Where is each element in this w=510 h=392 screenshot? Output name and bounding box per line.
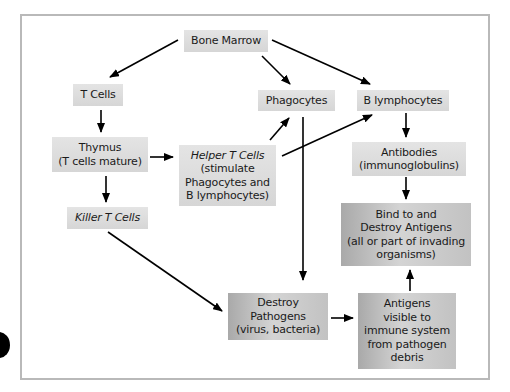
node-label: T Cells bbox=[80, 88, 115, 102]
arrow-bonemarrow-blymphocytes bbox=[272, 40, 370, 84]
node-line: Pathogens bbox=[250, 310, 306, 324]
node-label: Killer T Cells bbox=[75, 211, 140, 225]
node-sublabel-line: (stimulate bbox=[201, 162, 255, 176]
node-helper-t-cells: Helper T Cells (stimulate Phagocytes and… bbox=[179, 145, 276, 206]
node-label: Helper T Cells bbox=[191, 149, 265, 163]
node-line: (all or part of invading bbox=[347, 235, 465, 249]
node-thymus: Thymus (T cells mature) bbox=[52, 137, 148, 172]
node-antibodies: Antibodies (immunoglobulins) bbox=[352, 142, 466, 176]
node-phagocytes: Phagocytes bbox=[258, 90, 335, 111]
node-label: Bone Marrow bbox=[191, 34, 261, 48]
node-line: immune system bbox=[364, 324, 450, 338]
node-sublabel: (T cells mature) bbox=[58, 155, 142, 169]
node-line: Antigens bbox=[384, 297, 431, 311]
node-line: Destroy bbox=[257, 296, 298, 310]
node-sublabel-line: Phagocytes and bbox=[185, 176, 270, 190]
node-sublabel-line: B lymphocytes) bbox=[186, 189, 269, 203]
node-killer-t-cells: Killer T Cells bbox=[67, 207, 148, 229]
node-bind-destroy-antigens: Bind to and Destroy Antigens (all or par… bbox=[341, 203, 471, 266]
node-antigens-visible: Antigens visible to immune system from p… bbox=[358, 293, 456, 369]
node-line: Destroy Antigens bbox=[360, 221, 451, 235]
node-line: visible to bbox=[383, 311, 431, 325]
node-sublabel: (immunoglobulins) bbox=[359, 159, 459, 173]
node-label: Thymus bbox=[79, 141, 121, 155]
node-line: from pathogen bbox=[368, 338, 447, 352]
arrow-bonemarrow-phagocytes bbox=[262, 56, 290, 84]
arrow-helpert-phagocytes bbox=[270, 118, 289, 140]
node-label: Antibodies bbox=[381, 146, 437, 160]
node-line: organisms) bbox=[376, 248, 435, 262]
arrow-bonemarrow-tcells bbox=[110, 40, 178, 77]
node-line: (virus, bacteria) bbox=[236, 323, 320, 337]
node-label: Phagocytes bbox=[266, 94, 327, 108]
node-b-lymphocytes: B lymphocytes bbox=[357, 90, 449, 111]
node-line: debris bbox=[391, 351, 424, 365]
arrow-killert-destroy bbox=[108, 232, 222, 311]
node-bone-marrow: Bone Marrow bbox=[184, 30, 268, 52]
node-line: Bind to and bbox=[375, 208, 436, 222]
node-destroy-pathogens: Destroy Pathogens (virus, bacteria) bbox=[228, 293, 328, 340]
node-label: B lymphocytes bbox=[364, 94, 443, 108]
node-t-cells: T Cells bbox=[73, 84, 123, 106]
